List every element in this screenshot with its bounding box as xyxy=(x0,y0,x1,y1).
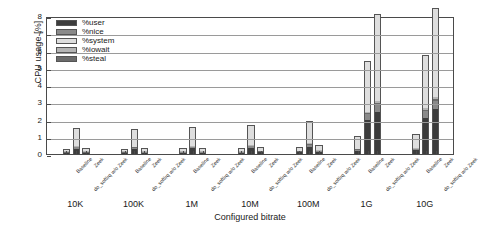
x-axis-title: Configured bitrate xyxy=(46,212,454,222)
group-tick-label: 10G xyxy=(396,199,454,210)
legend-label: %user xyxy=(82,19,105,27)
x-axis-tick xyxy=(86,151,87,154)
bar-tick-label: Baseline xyxy=(192,156,210,174)
bar-segment-system xyxy=(247,125,254,145)
y-axis-tick-label: 4 xyxy=(14,82,42,90)
gridline xyxy=(47,70,453,71)
x-axis-tick xyxy=(426,151,427,154)
stacked-bar xyxy=(432,8,439,154)
bar-segment-system xyxy=(73,128,80,146)
gridline xyxy=(47,87,453,88)
stacked-bar xyxy=(189,127,196,154)
x-axis-tick xyxy=(183,151,184,154)
legend-item: %nice xyxy=(56,28,114,36)
y-axis-tick-label: 6 xyxy=(14,48,42,56)
y-axis-tick xyxy=(47,35,51,36)
bar-tick-label: Baseline xyxy=(75,156,93,174)
x-axis-tick xyxy=(309,151,310,154)
y-axis-tick xyxy=(47,139,51,140)
x-axis-tick xyxy=(144,151,145,154)
x-axis-tick xyxy=(416,151,417,154)
group-tick-label: 100M xyxy=(279,199,337,210)
x-axis-tick xyxy=(134,151,135,154)
group-tick-label: 10M xyxy=(221,199,279,210)
bar-tick-label: Baseline xyxy=(133,156,151,174)
x-axis-tick xyxy=(193,151,194,154)
y-axis-tick-label: 7 xyxy=(14,30,42,38)
x-axis-tick xyxy=(66,151,67,154)
bar-segment-system xyxy=(189,127,196,146)
bar-tick-label: Zeek xyxy=(92,156,104,168)
bar-segment-system xyxy=(422,55,429,108)
y-axis-tick xyxy=(47,87,51,88)
x-axis-tick xyxy=(377,151,378,154)
bar-segment-user xyxy=(422,118,429,154)
bar-tick-label: Baseline xyxy=(250,156,268,174)
bar-segment-user xyxy=(432,109,439,154)
bar-tick-label: Baseline xyxy=(308,156,326,174)
legend-swatch-steal xyxy=(56,56,77,62)
y-axis-tick xyxy=(47,70,51,71)
bar-tick-label: Zeek xyxy=(267,156,279,168)
bar-tick-label: Zeek xyxy=(325,156,337,168)
x-axis-tick xyxy=(76,151,77,154)
bar-tick-labels: Baselinedo_softirq w/o ZeekZeekBaselined… xyxy=(46,156,454,198)
group-tick-label: 1G xyxy=(337,199,395,210)
legend-label: %steal xyxy=(82,55,106,63)
x-axis-tick xyxy=(261,151,262,154)
y-axis-tick-label: 3 xyxy=(14,99,42,107)
y-axis-tick-label: 1 xyxy=(14,134,42,142)
group-tick-label: 1M xyxy=(163,199,221,210)
legend-swatch-system xyxy=(56,38,77,44)
group-tick-label: 100K xyxy=(104,199,162,210)
bar-segment-user xyxy=(364,120,371,154)
gridline xyxy=(47,139,453,140)
y-axis-tick-label: 2 xyxy=(14,117,42,125)
legend-swatch-iowait xyxy=(56,47,77,53)
legend-swatch-nice xyxy=(56,29,77,35)
x-axis-tick xyxy=(241,151,242,154)
x-axis-tick xyxy=(436,151,437,154)
y-axis-tick xyxy=(47,53,51,54)
legend-label: %nice xyxy=(82,28,104,36)
x-axis-tick xyxy=(368,151,369,154)
bar-segment-nice xyxy=(422,111,429,118)
x-axis-tick xyxy=(299,151,300,154)
x-axis-tick xyxy=(125,151,126,154)
y-axis-tick xyxy=(47,18,51,19)
legend-label: %iowait xyxy=(82,46,110,54)
bar-tick-label: Zeek xyxy=(442,156,454,168)
group-tick-labels: 10K100K1M10M100M1G10G xyxy=(46,199,454,211)
x-axis-tick xyxy=(203,151,204,154)
bar-tick-label: Zeek xyxy=(151,156,163,168)
legend-item: %iowait xyxy=(56,46,114,54)
legend-label: %system xyxy=(82,37,114,45)
bar-segment-system xyxy=(306,121,313,143)
legend-item: %steal xyxy=(56,55,114,63)
x-axis-tick xyxy=(319,151,320,154)
y-axis-tick-label: 5 xyxy=(14,65,42,73)
x-axis-tick xyxy=(358,151,359,154)
y-axis-tick xyxy=(47,122,51,123)
bar-segment-system xyxy=(412,134,419,148)
gridline xyxy=(47,104,453,105)
gridline xyxy=(47,122,453,123)
legend-item: %system xyxy=(56,37,114,45)
bar-tick-label: Zeek xyxy=(384,156,396,168)
y-axis-tick-label: 0 xyxy=(14,151,42,159)
y-axis-tick xyxy=(47,104,51,105)
bar-tick-label: Baseline xyxy=(425,156,443,174)
y-axis-tick-label: 8 xyxy=(14,13,42,21)
chart-legend: %user%nice%system%iowait%steal xyxy=(56,19,114,63)
stacked-bar xyxy=(364,61,371,154)
bar-tick-label: Zeek xyxy=(209,156,221,168)
group-tick-label: 10K xyxy=(46,199,104,210)
x-axis-tick xyxy=(251,151,252,154)
bar-tick-label: Baseline xyxy=(367,156,385,174)
legend-item: %user xyxy=(56,19,114,27)
bar-segment-user xyxy=(374,112,381,154)
stacked-bar xyxy=(306,121,313,154)
legend-swatch-user xyxy=(56,20,77,26)
